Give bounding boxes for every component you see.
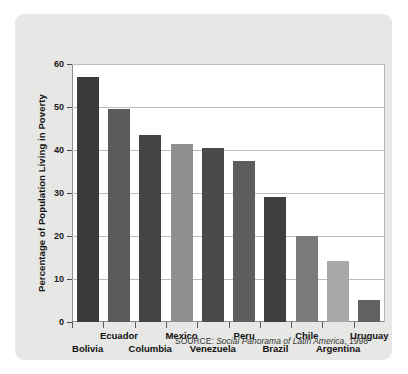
y-tick-label-0: 0 xyxy=(59,318,64,327)
plot-wrapper: 60 50 40 30 20 10 0 xyxy=(72,64,385,322)
x-tick-1 xyxy=(103,322,104,328)
x-tick-0 xyxy=(72,322,73,328)
y-tick-10 xyxy=(67,279,72,280)
x-tick-5 xyxy=(229,322,230,328)
bar-uruguay[interactable] xyxy=(358,300,380,322)
y-tick-40 xyxy=(67,150,72,151)
source-title: Social Panorama of Latin America xyxy=(216,336,344,346)
bar-columbia[interactable] xyxy=(139,135,161,322)
source-year: , 1998 xyxy=(344,336,368,346)
y-tick-30 xyxy=(67,193,72,194)
y-tick-label-30: 30 xyxy=(54,189,64,198)
x-tick-2 xyxy=(135,322,136,328)
gridline-50 xyxy=(72,107,385,108)
y-tick-label-40: 40 xyxy=(54,146,64,155)
bar-bolivia[interactable] xyxy=(77,77,99,322)
gridline-60 xyxy=(72,64,385,65)
y-tick-label-20: 20 xyxy=(54,232,64,241)
x-tick-9 xyxy=(354,322,355,328)
y-tick-label-50: 50 xyxy=(54,103,64,112)
y-tick-label-10: 10 xyxy=(54,275,64,284)
y-axis-title: Percentage of Population Living in Pover… xyxy=(35,64,49,322)
bar-mexico[interactable] xyxy=(171,144,193,322)
x-tick-8 xyxy=(322,322,323,328)
source-prefix: SOURCE: xyxy=(175,336,216,346)
x-tick-6 xyxy=(260,322,261,328)
y-tick-60 xyxy=(67,64,72,65)
bar-argentina[interactable] xyxy=(327,261,349,322)
bar-chile[interactable] xyxy=(296,236,318,322)
source-note: SOURCE: Social Panorama of Latin America… xyxy=(175,336,368,346)
chart-panel: Percentage of Population Living in Pover… xyxy=(15,14,392,360)
bar-brazil[interactable] xyxy=(264,197,286,322)
chart-figure: Percentage of Population Living in Pover… xyxy=(0,0,408,374)
x-label-bolivia: Bolivia xyxy=(72,344,103,354)
x-label-columbia: Columbia xyxy=(129,344,172,354)
bar-venezuela[interactable] xyxy=(202,148,224,322)
bar-ecuador[interactable] xyxy=(108,109,130,322)
y-tick-label-60: 60 xyxy=(54,60,64,69)
x-tick-3 xyxy=(166,322,167,328)
x-tick-4 xyxy=(197,322,198,328)
x-tick-7 xyxy=(291,322,292,328)
x-label-ecuador: Ecuador xyxy=(100,331,138,341)
bar-peru[interactable] xyxy=(233,161,255,322)
y-tick-20 xyxy=(67,236,72,237)
y-tick-50 xyxy=(67,107,72,108)
